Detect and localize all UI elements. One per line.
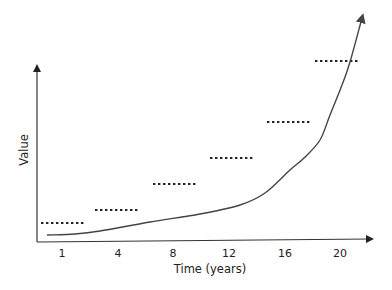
x-tick-label: 4 — [115, 247, 122, 260]
x-tick-label: 20 — [333, 247, 347, 260]
growth-curve — [47, 18, 362, 235]
x-tick-label: 12 — [222, 247, 236, 260]
x-axis-title: Time (years) — [173, 262, 246, 276]
y-axis-title: Value — [17, 134, 31, 166]
x-tick-label: 8 — [170, 247, 177, 260]
x-tick-label: 1 — [59, 247, 66, 260]
x-tick-label: 16 — [278, 247, 292, 260]
x-axis — [37, 239, 370, 242]
step-level-lines — [41, 61, 360, 223]
growth-chart: 1 4 8 12 16 20 Time (years) Value — [0, 0, 392, 290]
